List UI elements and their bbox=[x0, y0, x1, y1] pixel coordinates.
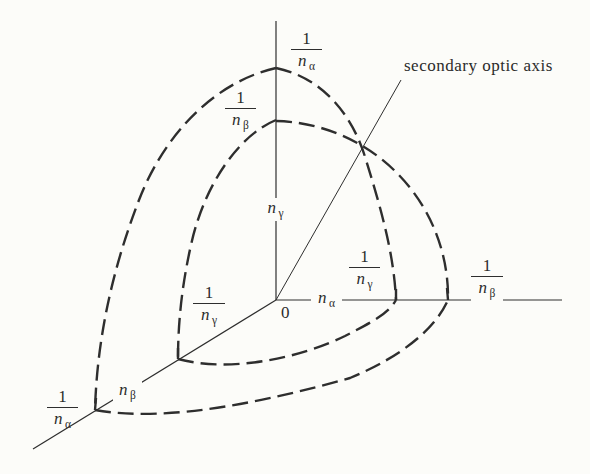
label-frac-diagonal-outer: 1 nα bbox=[47, 388, 78, 427]
frac-denominator: nβ bbox=[225, 111, 256, 128]
figure-canvas: 1 nα 1 nβ 1 nγ 1 nβ 1 nγ 1 nα nγ nα nβ 0… bbox=[0, 0, 590, 474]
frac-bar bbox=[291, 49, 322, 50]
frac-bar bbox=[471, 276, 503, 277]
label-frac-diagonal-inner: 1 nγ bbox=[193, 284, 225, 323]
arc-inner-left bbox=[178, 120, 276, 359]
label-frac-top-inner: 1 nβ bbox=[225, 89, 256, 128]
frac-bar bbox=[47, 407, 78, 408]
frac-denominator: nβ bbox=[471, 279, 503, 296]
frac-denominator: nα bbox=[47, 410, 78, 427]
frac-bar bbox=[349, 267, 380, 268]
beta-axis-label: nβ bbox=[113, 380, 142, 402]
secondary-optic-axis-line bbox=[276, 80, 401, 300]
frac-numerator: 1 bbox=[193, 284, 225, 302]
frac-numerator: 1 bbox=[225, 89, 256, 107]
vertical-axis-label: nγ bbox=[260, 198, 291, 221]
frac-bar bbox=[193, 303, 225, 304]
frac-numerator: 1 bbox=[349, 248, 380, 266]
frac-numerator: 1 bbox=[47, 388, 78, 406]
arc-bottom-outer bbox=[95, 300, 448, 414]
label-frac-right-inner: 1 nγ bbox=[349, 248, 380, 287]
frac-numerator: 1 bbox=[471, 257, 503, 275]
frac-numerator: 1 bbox=[291, 30, 322, 48]
horizontal-axis-label: nα bbox=[311, 288, 342, 310]
frac-bar bbox=[225, 108, 256, 109]
label-frac-top-outer: 1 nα bbox=[291, 30, 322, 69]
junction-ticks bbox=[95, 288, 448, 410]
origin-label: 0 bbox=[281, 303, 290, 323]
label-frac-right-outer: 1 nβ bbox=[471, 257, 503, 302]
frac-denominator: nα bbox=[291, 52, 322, 69]
frac-denominator: nγ bbox=[349, 270, 380, 287]
secondary-optic-axis-label: secondary optic axis bbox=[404, 56, 553, 76]
frac-denominator: nγ bbox=[193, 306, 225, 323]
